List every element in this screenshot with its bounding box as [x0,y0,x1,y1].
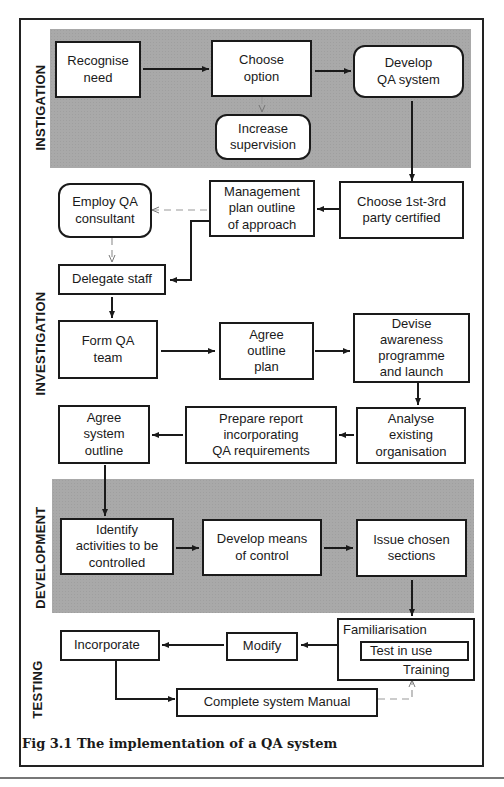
node-familiarisation-group: Familiarisation Test in use Training [337,618,475,681]
node-identify-activities: Identify activities to be controlled [60,518,174,575]
node-test-in-use: Test in use [360,641,469,661]
node-modify: Modify [226,632,298,661]
node-agree-outline-plan: Agree outline plan [219,322,314,380]
phase-label-testing: TESTING [30,660,45,720]
node-devise-awareness: Devise awareness programme and launch [353,313,470,383]
node-issue-chosen-sections: Issue chosen sections [356,519,467,577]
figure-caption: Fig 3.1 The implementation of a QA syste… [22,736,337,751]
node-recognise-need: Recognise need [55,41,141,98]
node-choose-party-certified: Choose 1st-3rd party certified [339,181,464,239]
phase-label-instigation: INSTIGATION [33,58,48,158]
node-develop-means-control: Develop means of control [202,519,322,576]
label-familiarisation: Familiarisation [343,622,427,638]
node-complete-system-manual: Complete system Manual [176,688,378,717]
node-employ-qa-consultant: Employ QA consultant [58,183,152,238]
node-develop-qa-system: Develop QA system [353,45,464,98]
node-choose-option: Choose option [211,40,312,97]
node-management-plan: Management plan outline of approach [209,180,315,237]
node-analyse-existing: Analyse existing organisation [356,407,466,464]
label-training: Training [403,662,449,678]
phase-label-investigation: INVESTIGATION [33,284,48,404]
node-delegate-staff: Delegate staff [58,264,166,295]
phase-label-development: DEVELOPMENT [33,503,48,613]
node-agree-system-outline: Agree system outline [58,405,150,464]
node-form-qa-team: Form QA team [58,320,158,379]
node-incorporate: Incorporate [60,630,160,661]
node-prepare-report: Prepare report incorporating QA requirem… [185,406,337,464]
bottom-rule [0,777,504,779]
node-increase-supervision: Increase supervision [215,114,311,160]
